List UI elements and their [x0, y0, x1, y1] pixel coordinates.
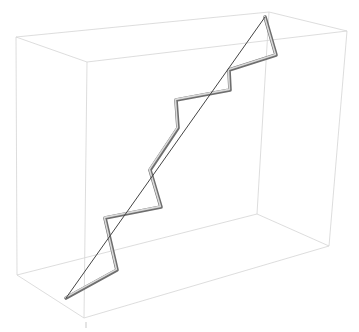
zigzag-tube-path [65, 16, 276, 298]
straight-line [66, 17, 265, 298]
bounding-box [16, 12, 347, 318]
3d-plot [0, 0, 359, 332]
